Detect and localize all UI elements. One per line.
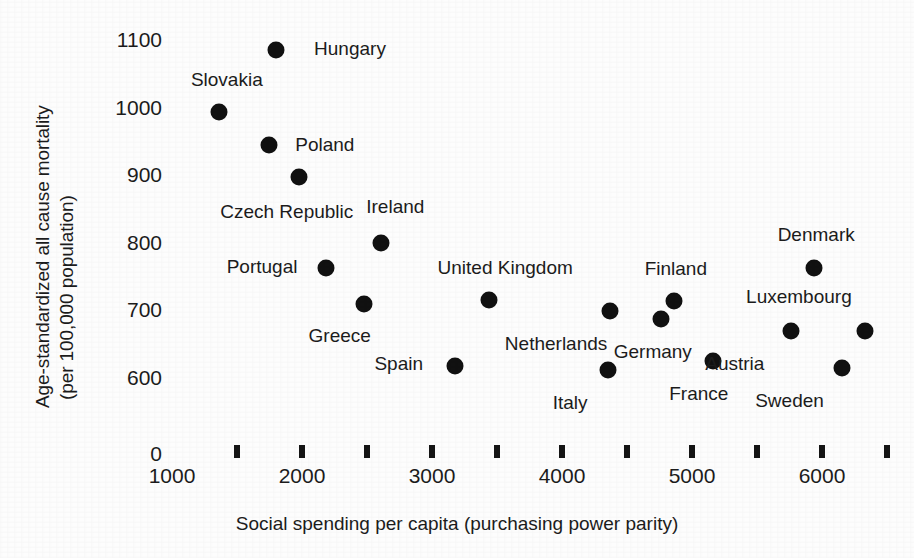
data-point-label: Czech Republic [220,201,353,223]
data-point-marker[interactable] [373,235,390,252]
data-point-label: Greece [309,325,371,347]
scatter-plot-figure: Age-standardized all cause mortality (pe… [0,0,914,558]
data-point-label: Spain [374,353,423,375]
data-point-marker[interactable] [210,104,227,121]
data-point-label: United Kingdom [438,257,573,279]
data-point-label: Germany [614,341,692,363]
data-point-label: Poland [295,134,354,156]
data-point-marker[interactable] [782,322,799,339]
data-point-marker[interactable] [446,357,463,374]
data-point-marker[interactable] [260,136,277,153]
data-point-label: Luxembourg [746,286,852,308]
data-point-label: Italy [553,392,588,414]
plot-area: HungarySlovakiaPolandCzech RepublicIrela… [0,0,914,500]
x-axis-title: Social spending per capita (purchasing p… [0,513,914,535]
data-point-marker[interactable] [355,296,372,313]
data-point-marker[interactable] [318,260,335,277]
data-point-marker[interactable] [268,42,285,59]
data-point-marker[interactable] [652,311,669,328]
data-point-marker[interactable] [602,303,619,320]
data-point-marker[interactable] [856,322,873,339]
data-point-label: Finland [645,258,707,280]
data-point-label: Netherlands [505,333,607,355]
data-point-label: Hungary [314,38,386,60]
data-point-marker[interactable] [665,292,682,309]
data-point-label: France [669,383,728,405]
data-point-label: Denmark [778,224,855,246]
data-point-label: Slovakia [191,69,263,91]
data-point-marker[interactable] [600,361,617,378]
data-point-label: Austria [705,353,764,375]
data-point-label: Sweden [755,390,824,412]
data-point-marker[interactable] [290,169,307,186]
data-point-label: Ireland [366,196,424,218]
data-point-marker[interactable] [833,359,850,376]
data-point-marker[interactable] [806,260,823,277]
data-point-label: Portugal [227,256,298,278]
data-point-marker[interactable] [481,292,498,309]
